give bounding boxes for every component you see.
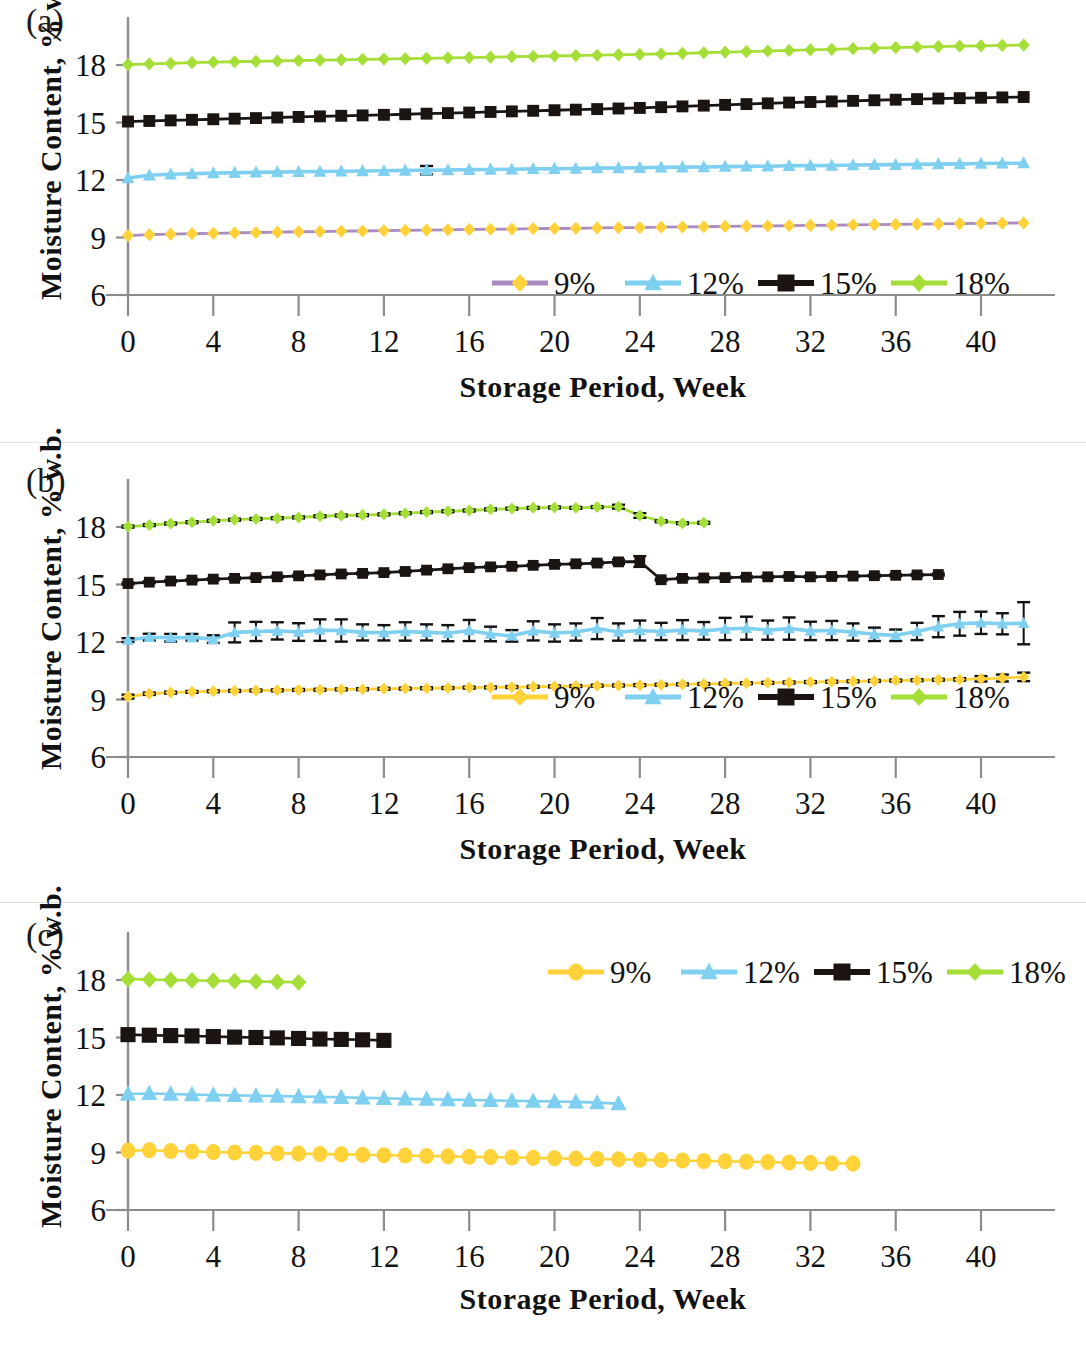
data-point-marker: [229, 226, 241, 239]
data-point-marker: [144, 519, 155, 531]
legend: 9%12%15%18%: [548, 955, 1066, 990]
data-point-marker: [634, 556, 645, 567]
data-point-marker: [271, 54, 283, 67]
legend-entry-12pct[interactable]: 12%: [681, 955, 800, 990]
data-point-marker: [677, 100, 689, 112]
data-point-marker: [484, 51, 496, 64]
data-point-marker: [378, 508, 389, 520]
data-point-marker: [314, 110, 326, 122]
data-point-marker: [144, 688, 155, 700]
data-point-marker: [911, 217, 923, 230]
data-point-marker: [718, 1153, 733, 1169]
data-point-marker: [379, 567, 390, 578]
data-point-marker: [698, 220, 710, 233]
data-point-marker: [248, 973, 263, 990]
data-point-marker: [464, 682, 475, 694]
data-point-marker: [547, 1150, 562, 1166]
y-tick-label-9: 9: [91, 221, 107, 256]
series-12pct: [120, 1085, 627, 1111]
data-point-marker: [312, 1031, 327, 1046]
data-point-marker: [805, 676, 816, 688]
legend-label: 18%: [1009, 955, 1066, 990]
legend-label: 12%: [743, 955, 800, 990]
legend-label: 15%: [820, 680, 877, 715]
data-point-marker: [676, 220, 688, 233]
panel-a-plot: 6912151804812162024283236409%12%15%18%: [0, 0, 1086, 400]
data-point-marker: [826, 95, 838, 107]
legend-entry-18pct[interactable]: 18%: [891, 680, 1010, 715]
data-point-marker: [570, 502, 581, 514]
legend-label: 18%: [953, 680, 1010, 715]
data-point-marker: [783, 219, 795, 232]
data-point-marker: [314, 225, 326, 238]
data-point-marker: [803, 1155, 818, 1171]
data-point-marker: [357, 509, 368, 521]
data-point-marker: [634, 510, 645, 522]
data-point-marker: [485, 681, 496, 693]
data-point-marker: [592, 558, 603, 569]
data-point-marker: [570, 558, 581, 569]
data-point-marker: [933, 569, 944, 580]
data-point-marker: [334, 1146, 349, 1162]
data-point-marker: [399, 52, 411, 65]
x-tick-label-16: 16: [454, 786, 485, 821]
data-point-marker: [634, 48, 646, 61]
x-tick-label-4: 4: [206, 324, 222, 359]
series-15pct: [122, 91, 1030, 127]
data-point-marker: [144, 577, 155, 588]
data-point-marker: [740, 45, 752, 58]
data-point-marker: [506, 503, 517, 515]
data-point-marker: [250, 684, 261, 696]
legend-entry-18pct[interactable]: 18%: [947, 955, 1066, 990]
data-point-marker: [848, 571, 859, 582]
data-point-marker: [378, 52, 390, 65]
data-point-marker: [314, 510, 325, 522]
data-point-marker: [464, 505, 475, 517]
data-point-marker: [549, 104, 561, 116]
data-point-marker: [485, 561, 496, 572]
data-point-marker: [528, 560, 539, 571]
data-point-marker: [313, 1146, 328, 1162]
data-point-marker: [824, 1155, 839, 1171]
data-point-marker: [293, 570, 304, 581]
x-tick-label-8: 8: [291, 1239, 307, 1274]
y-tick-label-15: 15: [75, 1021, 106, 1056]
y-tick-label-6: 6: [91, 1193, 107, 1228]
data-point-marker: [613, 103, 625, 115]
data-point-marker: [442, 107, 454, 119]
x-tick-label-24: 24: [624, 786, 656, 821]
data-point-marker: [163, 1028, 178, 1043]
data-point-marker: [847, 42, 859, 55]
data-point-marker: [271, 226, 283, 239]
data-point-marker: [357, 109, 369, 121]
data-point-marker: [847, 95, 859, 107]
legend-entry-15pct[interactable]: 15%: [758, 680, 877, 715]
data-point-marker: [548, 49, 560, 62]
data-point-marker: [250, 226, 262, 239]
data-point-marker: [272, 571, 283, 582]
data-point-marker: [336, 683, 347, 695]
x-tick-label-28: 28: [710, 786, 741, 821]
panel-b-plot: 6912151804812162024283236409%12%15%18%: [0, 450, 1086, 860]
legend-label: 15%: [876, 955, 933, 990]
data-point-marker: [656, 574, 667, 585]
data-point-marker: [272, 684, 283, 696]
data-point-marker: [719, 99, 731, 111]
data-point-marker: [804, 219, 816, 232]
series-9pct: [121, 1142, 861, 1172]
x-tick-label-20: 20: [539, 324, 570, 359]
y-tick-label-6: 6: [91, 278, 107, 313]
data-point-marker: [335, 225, 347, 238]
legend-entry-9pct[interactable]: 9%: [548, 955, 651, 990]
data-point-marker: [805, 571, 816, 582]
data-point-marker: [741, 572, 752, 583]
y-tick-label-15: 15: [75, 568, 106, 603]
data-point-marker: [206, 1144, 221, 1160]
legend-entry-15pct[interactable]: 15%: [814, 955, 933, 990]
data-point-marker: [442, 505, 453, 517]
data-point-marker: [442, 563, 453, 574]
data-point-marker: [612, 48, 624, 61]
data-point-marker: [739, 1154, 754, 1170]
data-point-marker: [613, 501, 624, 513]
data-point-marker: [890, 41, 902, 54]
